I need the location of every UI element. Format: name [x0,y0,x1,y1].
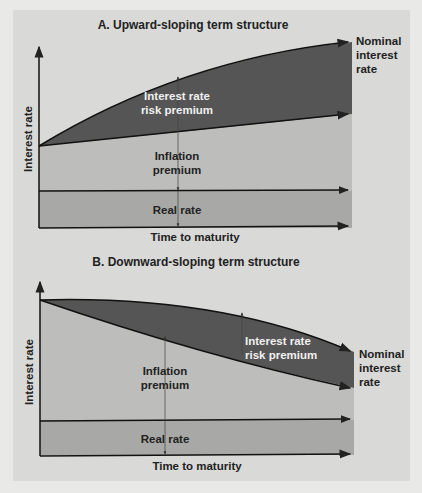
nominal-rate-label-2: interest [356,49,398,61]
real-rate-area [40,420,354,455]
risk-premium-label-2: risk premium [245,349,317,361]
panel-a: A. Upward-sloping term structure Interes… [22,18,401,243]
inflation-premium-label: Inflation [155,150,200,162]
inflation-premium-label: Inflation [143,365,188,377]
nominal-rate-label: Nominal [359,348,404,360]
inflation-premium-label-2: premium [141,379,190,391]
real-rate-label: Real rate [141,433,190,445]
risk-premium-label: Interest rate [245,335,311,347]
x-axis-label: Time to maturity [150,231,240,243]
risk-premium-label-2: risk premium [141,104,213,116]
nominal-rate-label-2: interest [359,362,401,374]
y-axis-label: Interest rate [22,106,34,172]
panel-b-title: B. Downward-sloping term structure [92,255,300,269]
term-structure-diagrams: A. Upward-sloping term structure Interes… [0,0,422,493]
inflation-premium-label-2: premium [153,164,202,176]
nominal-rate-label-3: rate [356,63,377,75]
y-axis-label: Interest rate [23,339,35,405]
panel-b: B. Downward-sloping term structure Inter… [23,255,404,472]
nominal-rate-label: Nominal [356,35,401,47]
real-rate-label: Real rate [153,204,202,216]
panel-a-title: A. Upward-sloping term structure [98,18,289,32]
nominal-rate-label-3: rate [359,376,380,388]
x-axis-label: Time to maturity [152,460,242,472]
risk-premium-label: Interest rate [144,90,210,102]
